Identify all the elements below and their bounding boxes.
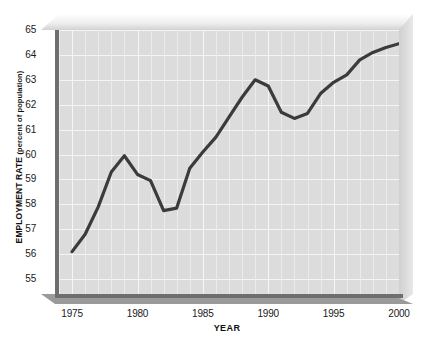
bevel-right-face: [399, 14, 413, 304]
x-axis-tick-label: 2000: [379, 308, 419, 319]
y-axis-title-main: EMPLOYMENT RATE: [14, 157, 24, 243]
x-axis-tick-label: 1985: [183, 308, 223, 319]
plot-area: [59, 30, 399, 294]
x-axis-line: [55, 294, 403, 298]
x-axis-tick-labels: 197519801985199019952000: [41, 308, 413, 322]
x-axis-tick-label: 1995: [314, 308, 354, 319]
y-axis-title-sub: (percent of population): [15, 71, 24, 155]
chart-3d-box: [41, 14, 413, 304]
y-axis-tick-label: 55: [10, 273, 36, 284]
bevel-top-face: [41, 14, 413, 30]
y-axis-title: EMPLOYMENT RATE (percent of population): [14, 52, 24, 262]
y-axis-tick-label: 65: [10, 24, 36, 35]
x-axis-tick-label: 1990: [248, 308, 288, 319]
x-axis-title: YEAR: [41, 323, 413, 333]
series-line: [72, 44, 399, 252]
employment-rate-line-chart: 5556575859606162636465 EMPLOYMENT RATE (…: [0, 0, 423, 346]
x-axis-tick-label: 1975: [52, 308, 92, 319]
data-series-layer: [59, 30, 399, 294]
x-axis-tick-label: 1980: [118, 308, 158, 319]
